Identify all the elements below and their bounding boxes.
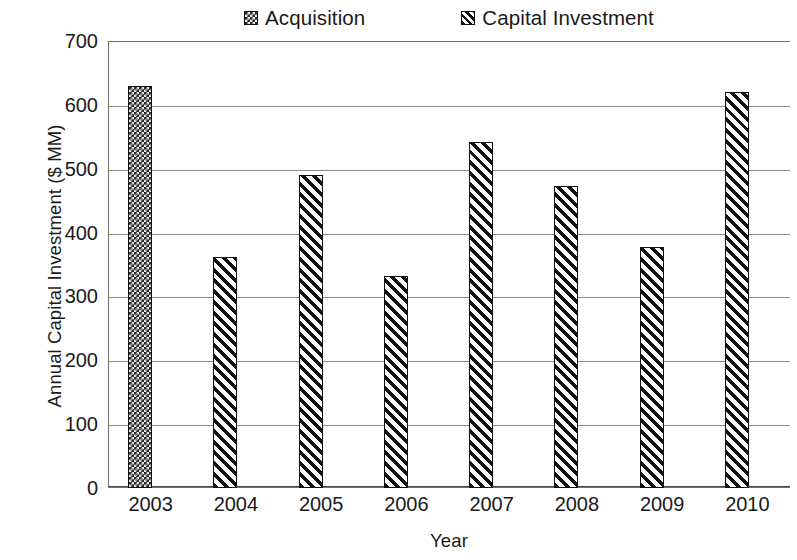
bar-slot-2005 bbox=[279, 41, 364, 488]
checkered-square-icon bbox=[244, 11, 258, 25]
bar-slot-2008 bbox=[534, 41, 619, 488]
y-tick-label: 200 bbox=[8, 350, 98, 370]
x-tick-label: 2003 bbox=[108, 494, 193, 514]
y-tick-label: 500 bbox=[8, 159, 98, 179]
bar-slot-2006 bbox=[364, 41, 449, 488]
bars-container bbox=[108, 41, 790, 488]
bar-2005 bbox=[299, 175, 323, 488]
y-tick-label: 600 bbox=[8, 95, 98, 115]
bar-slot-2003 bbox=[108, 41, 193, 488]
y-tick-label: 0 bbox=[8, 478, 98, 498]
bar-2008 bbox=[554, 186, 578, 488]
bar-slot-2010 bbox=[705, 41, 790, 488]
x-tick-label: 2005 bbox=[279, 494, 364, 514]
hatched-square-icon bbox=[461, 11, 475, 25]
bar-slot-2004 bbox=[193, 41, 278, 488]
x-axis-title: Year bbox=[108, 530, 790, 552]
y-tick-label: 300 bbox=[8, 286, 98, 306]
bar-2009 bbox=[640, 247, 664, 488]
y-tick-label: 700 bbox=[8, 31, 98, 51]
bar-2007 bbox=[469, 142, 493, 488]
x-axis-tick-labels: 2003 2004 2005 2006 2007 2008 2009 2010 bbox=[108, 494, 790, 526]
x-tick-label: 2009 bbox=[620, 494, 705, 514]
y-tick-label: 400 bbox=[8, 223, 98, 243]
x-tick-label: 2010 bbox=[705, 494, 790, 514]
legend-item-label: Acquisition bbox=[265, 8, 365, 29]
legend-item-capital-investment: Capital Investment bbox=[461, 8, 654, 29]
bar-2003 bbox=[128, 86, 152, 488]
chart-legend: Acquisition Capital Investment bbox=[108, 2, 790, 34]
y-axis-tick-labels: 700 600 500 400 300 200 100 0 bbox=[0, 41, 98, 488]
legend-item-label: Capital Investment bbox=[482, 8, 654, 29]
legend-item-acquisition: Acquisition bbox=[244, 8, 365, 29]
x-tick-label: 2004 bbox=[193, 494, 278, 514]
bar-2006 bbox=[384, 276, 408, 488]
bar-slot-2007 bbox=[449, 41, 534, 488]
bar-2004 bbox=[213, 257, 237, 488]
x-tick-label: 2007 bbox=[449, 494, 534, 514]
x-tick-label: 2006 bbox=[364, 494, 449, 514]
bar-slot-2009 bbox=[620, 41, 705, 488]
bar-chart: Acquisition Capital Investment Annual Ca… bbox=[0, 0, 797, 560]
y-tick-label: 100 bbox=[8, 414, 98, 434]
x-tick-label: 2008 bbox=[534, 494, 619, 514]
bar-2010 bbox=[725, 92, 749, 488]
